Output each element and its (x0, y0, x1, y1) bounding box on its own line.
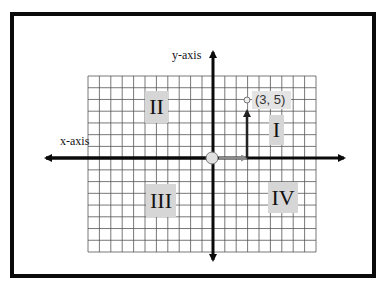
point-label: (3, 5) (252, 91, 291, 109)
quadrant-label-iv: IV (268, 182, 298, 213)
y-axis-label: y-axis (172, 48, 201, 63)
point-marker (244, 97, 250, 103)
origin-marker (206, 152, 218, 164)
coordinate-plane (0, 0, 383, 287)
quadrant-label-i: I (269, 115, 284, 145)
quadrant-label-ii: II (145, 91, 168, 123)
x-axis-label: x-axis (60, 134, 89, 149)
quadrant-label-iii: III (146, 184, 176, 217)
